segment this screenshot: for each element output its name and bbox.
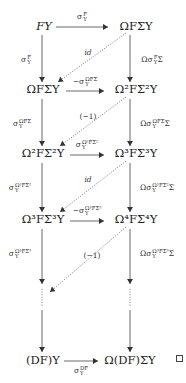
node-r6-right: Ω(DF)ΣY xyxy=(104,355,155,367)
label-d1: id xyxy=(84,49,91,57)
label-d4: (−1) xyxy=(84,252,101,260)
node-r4-left: Ω³FΣ³Y xyxy=(22,214,64,226)
label-lv2: σΩFΣY xyxy=(13,119,31,130)
node-r4-right: Ω⁴FΣ⁴Y xyxy=(115,214,157,226)
label-h1: σFY xyxy=(77,12,87,23)
label-rv2: ΩσΩFΣYΣ xyxy=(140,119,170,130)
label-d3: id xyxy=(84,176,91,184)
label-rv1: ΩσFYΣ xyxy=(141,55,162,66)
label-rv4: ΩσΩ³FΣ³YΣ xyxy=(140,249,174,260)
node-r3-left: Ω²FΣ²Y xyxy=(22,148,64,160)
label-rv3: ΩσΩ²FΣ²YΣ xyxy=(140,183,174,194)
label-d2: (−1) xyxy=(80,113,97,121)
node-r6-left: (DF)Y xyxy=(26,355,60,367)
node-r2-right: Ω²FΣ²Y xyxy=(115,84,157,96)
label-h6: σDFY xyxy=(74,366,88,377)
label-lv1: σFY xyxy=(21,55,31,66)
label-h3: σΩ²FΣ²Y xyxy=(76,140,98,151)
node-r3-right: Ω³FΣ³Y xyxy=(115,148,157,160)
node-r1-right: ΩFΣY xyxy=(119,21,152,33)
label-h4: −σΩ³FΣ³Y xyxy=(73,206,102,217)
node-r2-left: ΩFΣY xyxy=(26,84,59,96)
label-lv4: σΩ³FΣ³Y xyxy=(9,249,31,260)
label-lv3: σΩ²FΣ²Y xyxy=(9,183,31,194)
label-h2: −σΩFΣY xyxy=(73,77,97,88)
node-r1-left: FY xyxy=(36,21,52,33)
qed-box xyxy=(176,355,183,362)
